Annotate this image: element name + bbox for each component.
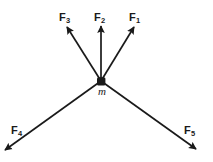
vector-label-f5-subscript: 5	[191, 129, 195, 138]
vector-label-f3-subscript: 3	[66, 16, 70, 25]
vector-label-f5: F5	[184, 125, 195, 136]
vector-label-f4-subscript: 4	[18, 129, 22, 138]
vector-label-f4: F4	[11, 125, 22, 136]
mass-point-label: m	[98, 86, 106, 97]
vector-label-f1: F1	[129, 12, 140, 23]
vector-label-f2-text: F	[94, 11, 101, 23]
vector-label-f2-subscript: 2	[101, 16, 105, 25]
vector-label-f4-text: F	[11, 124, 18, 136]
vector-label-f1-text: F	[129, 11, 136, 23]
vector-line-f3	[67, 27, 101, 81]
vector-label-f3: F3	[59, 12, 70, 23]
vector-line-f1	[101, 27, 134, 81]
vector-line-f4	[5, 81, 101, 150]
vector-line-f5	[101, 81, 196, 149]
force-diagram: F1 F2 F3 F4 F5 m	[0, 0, 213, 162]
vector-label-f1-subscript: 1	[136, 16, 140, 25]
vector-label-f3-text: F	[59, 11, 66, 23]
vector-label-f2: F2	[94, 12, 105, 23]
vector-canvas	[0, 0, 213, 162]
vector-label-f5-text: F	[184, 124, 191, 136]
